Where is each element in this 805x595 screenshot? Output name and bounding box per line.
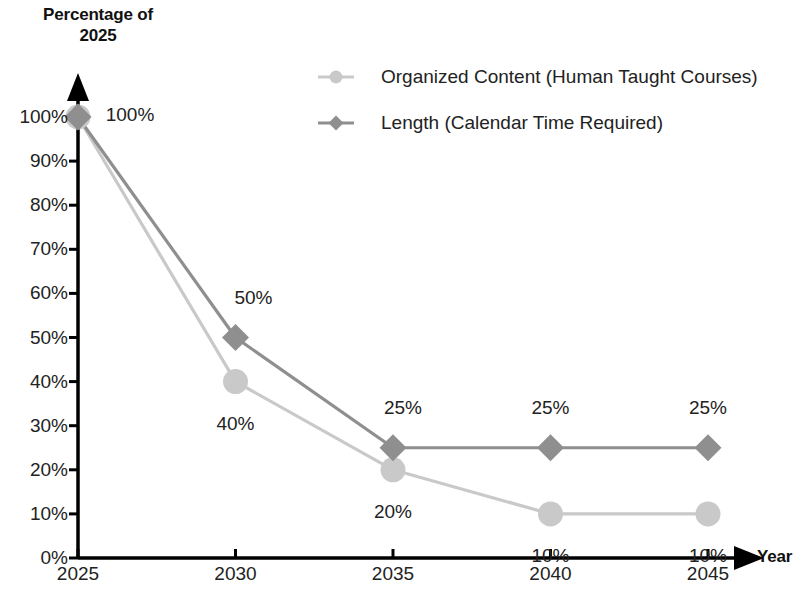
circle-marker-icon <box>330 71 343 84</box>
legend-item-label[interactable]: Length (Calendar Time Required) <box>381 112 663 134</box>
legend-item-label[interactable]: Organized Content (Human Taught Courses) <box>381 66 758 88</box>
chart-container: Percentage of 2025 Year 0%10%20%30%40%50… <box>0 0 805 595</box>
diamond-marker-icon <box>329 116 344 131</box>
legend-markers <box>0 0 805 595</box>
